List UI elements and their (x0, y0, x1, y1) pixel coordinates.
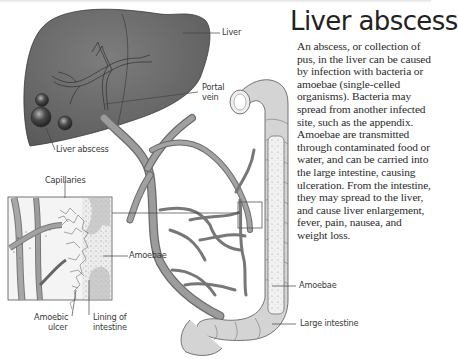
label-amoebae-inset: Amoebae (129, 251, 166, 261)
label-capillaries: Capillaries (45, 176, 86, 186)
label-amoebae-intestine: Amoebae (299, 281, 336, 291)
label-liver-abscess: Liver abscess (56, 145, 109, 155)
page-title: Liver abscess (290, 6, 458, 36)
label-large-intestine: Large intestine (300, 319, 358, 329)
inset-detail (8, 197, 112, 309)
description-paragraph: An abscess, or collection of pus, in the… (297, 40, 433, 242)
portal-vein-vessels (104, 118, 254, 316)
label-portal-vein-line2: vein (202, 93, 219, 103)
label-liver: Liver (222, 28, 241, 38)
label-lining-line2: intestine (93, 323, 127, 333)
label-amoebic-ulcer-line2: ulcer (48, 323, 67, 333)
